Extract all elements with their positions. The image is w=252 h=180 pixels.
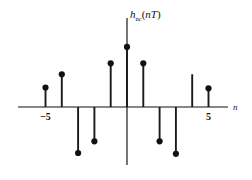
stem-marker-dot	[108, 60, 114, 66]
stem-plot-figure: −55 n hnc(nT)	[0, 0, 252, 180]
stem-marker-dot	[59, 71, 65, 77]
stem-marker-dot	[140, 60, 146, 66]
x-axis-name-label: n	[233, 102, 238, 112]
stem-marker-dot	[91, 138, 97, 144]
x-tick-label: 5	[206, 111, 211, 122]
stem-marker-dot	[173, 151, 179, 157]
ylabel-argument: nT	[145, 8, 158, 20]
stem-plot-canvas: −55 n hnc(nT)	[0, 0, 252, 180]
stem-marker-dot	[124, 44, 130, 50]
stem-marker-dot	[205, 85, 211, 91]
svg-text:hnc(nT): hnc(nT)	[130, 8, 161, 22]
y-axis-name-label: hnc(nT)	[130, 8, 161, 22]
ylabel-close-paren: )	[157, 8, 161, 21]
stem-marker-dot	[75, 150, 81, 156]
stem-marker-dot	[42, 84, 48, 90]
stem-marker-dot	[157, 138, 163, 144]
x-tick-labels: −55	[40, 111, 211, 122]
x-tick-label: −5	[40, 111, 51, 122]
